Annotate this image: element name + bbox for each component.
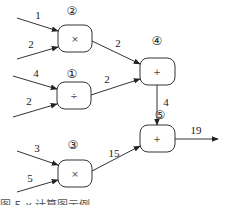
computational-graph: × ② ÷ ① × ③ + ④ + ⑤ 1 2 4 2 3 5 2 2 4 15… [0, 0, 231, 205]
node-4-label: ④ [152, 34, 163, 48]
node-5-label: ⑤ [155, 108, 166, 122]
input-value-3: 3 [34, 142, 40, 154]
node-4-operator: + [153, 67, 161, 77]
edge-value-node4-node5: 4 [163, 96, 169, 108]
input-edge-5-to-node3 [17, 180, 58, 192]
node-1-label: ① [67, 67, 78, 81]
node-2-label: ② [67, 4, 78, 18]
input-value-4: 4 [33, 67, 39, 79]
input-edge-2-to-node1 [13, 104, 57, 117]
edge-node1-to-node4 [91, 79, 140, 95]
edge-value-node2-node4: 2 [115, 37, 121, 49]
node-1-operator: ÷ [70, 91, 78, 101]
input-value-2b: 2 [26, 95, 32, 107]
node-2: × ② [58, 4, 92, 52]
node-3-label: ③ [68, 138, 79, 152]
node-3: × ③ [58, 138, 92, 187]
node-5-operator: + [153, 134, 161, 144]
node-5: + ⑤ [140, 108, 175, 152]
node-1: ÷ ① [57, 67, 91, 109]
edge-value-node3-node5: 15 [109, 147, 121, 159]
node-4: + ④ [140, 34, 175, 85]
input-value-5: 5 [27, 172, 33, 184]
node-2-operator: × [71, 34, 79, 44]
input-edge-2-to-node2 [17, 47, 58, 59]
input-value-1: 1 [35, 9, 41, 21]
figure-caption: 图 5-x 计算图示例 [0, 196, 231, 205]
input-value-2a: 2 [28, 38, 34, 50]
output-value: 19 [191, 124, 203, 136]
node-3-operator: × [71, 169, 79, 179]
edge-value-node1-node4: 2 [104, 73, 110, 85]
